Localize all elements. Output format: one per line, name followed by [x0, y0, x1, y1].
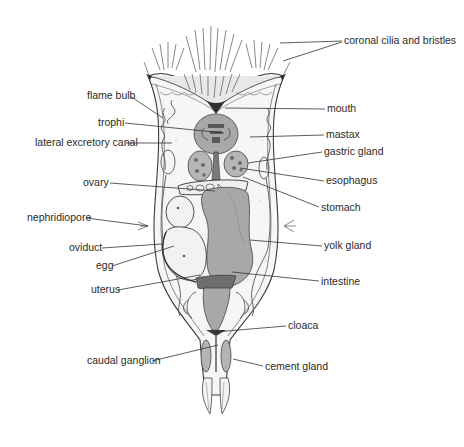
label-mastax: mastax [326, 128, 361, 140]
label-ovary: ovary [83, 176, 109, 188]
label-intestine: intestine [321, 275, 360, 287]
label-flame-bulb: flame bulb [87, 89, 136, 101]
labels-left: flame bulb trophi lateral excretory cana… [27, 89, 161, 366]
label-uterus: uterus [91, 283, 120, 295]
label-lateral-excretory-canal: lateral excretory canal [35, 136, 138, 148]
leader-coronal-cilia-1 [280, 41, 342, 43]
leader-cement-gland [233, 359, 263, 366]
uterus [196, 275, 236, 289]
leader-coronal-cilia-2 [283, 42, 342, 61]
stomach-yolk-gland [202, 187, 253, 286]
label-gastric-gland: gastric gland [324, 145, 384, 157]
label-mouth: mouth [327, 102, 356, 114]
label-egg: egg [96, 259, 114, 271]
rotifer-anatomy-diagram: flame bulb trophi lateral excretory cana… [0, 0, 464, 447]
label-esophagus: esophagus [326, 174, 377, 186]
leader-oviduct [102, 244, 162, 248]
label-stomach: stomach [321, 201, 361, 213]
developing-egg [166, 196, 194, 228]
label-caudal-ganglion: caudal ganglion [87, 354, 161, 366]
label-trophi: trophi [98, 116, 124, 128]
label-nephridiopore: nephridiopore [27, 211, 91, 223]
label-cement-gland: cement gland [265, 360, 328, 372]
label-oviduct: oviduct [69, 241, 102, 253]
diagram-canvas: flame bulb trophi lateral excretory cana… [0, 0, 464, 447]
rotifer-body [138, 26, 296, 414]
label-cloaca: cloaca [288, 319, 319, 331]
labels-right: coronal cilia and bristles mouth mastax … [265, 34, 456, 372]
label-yolk-gland: yolk gland [324, 239, 371, 251]
label-coronal-cilia-and-bristles: coronal cilia and bristles [344, 34, 456, 46]
